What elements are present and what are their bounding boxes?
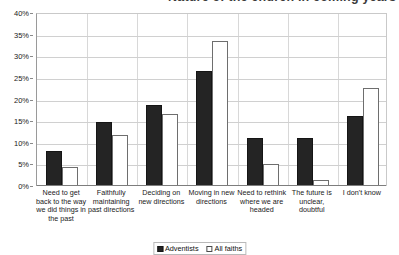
y-axis-tick <box>30 100 33 101</box>
bar-group <box>238 14 288 186</box>
bar-group <box>87 14 137 186</box>
y-axis-tick-label: 40% <box>14 9 29 18</box>
x-axis-category-label: Need to rethink where we are headed <box>237 189 287 215</box>
y-axis-tick <box>30 13 33 14</box>
legend-label: Adventists <box>165 244 199 253</box>
chart-legend: Adventists All faiths <box>153 242 246 255</box>
plot-area <box>36 13 387 186</box>
y-axis-tick <box>30 78 33 79</box>
bar-all-faiths <box>112 135 128 186</box>
legend-item-adventists: Adventists <box>157 244 199 253</box>
y-axis-tick-label: 30% <box>14 52 29 61</box>
y-axis-tick-label: 0% <box>18 182 29 191</box>
y-axis-tick-label: 5% <box>18 160 29 169</box>
bar-adventists <box>247 138 263 186</box>
bar-all-faiths <box>263 164 279 186</box>
x-axis-category-label: Moving in new directions <box>186 189 236 206</box>
y-axis-tick <box>30 35 33 36</box>
y-axis-tick <box>30 143 33 144</box>
y-axis-tick-label: 20% <box>14 95 29 104</box>
y-axis-tick-label: 15% <box>14 117 29 126</box>
page-title: Nature of the church in coming years <box>168 0 396 4</box>
x-axis-category-label: The future is unclear, doubtful <box>287 189 337 215</box>
x-axis-category-label: Need to get back to the way we did thing… <box>36 189 86 223</box>
bar-adventists <box>96 122 112 186</box>
bar-group <box>137 14 187 186</box>
chart-title-cropped: Nature of the church in coming years <box>0 0 399 9</box>
y-axis: 0%5%10%15%20%25%30%35%40% <box>0 0 34 190</box>
y-axis-tick <box>30 121 33 122</box>
bar-adventists <box>146 105 162 186</box>
legend-swatch-icon <box>157 246 163 252</box>
legend-swatch-icon <box>207 246 213 252</box>
y-axis-tick <box>30 56 33 57</box>
bar-all-faiths <box>62 167 78 186</box>
y-axis-tick-label: 25% <box>14 73 29 82</box>
bar-groups <box>37 14 386 186</box>
x-axis-category-label: Faithfully maintaining past directions <box>86 189 136 215</box>
x-axis-category-label: I don't know <box>337 189 387 198</box>
y-axis-tick <box>30 186 33 187</box>
bar-chart: Nature of the church in coming years 0%5… <box>0 0 399 255</box>
x-axis-baseline <box>37 185 386 186</box>
x-axis-category-label: Deciding on new directions <box>136 189 186 206</box>
bar-all-faiths <box>212 41 228 186</box>
bar-group <box>338 14 388 186</box>
y-axis-tick-label: 10% <box>14 138 29 147</box>
bar-all-faiths <box>162 114 178 186</box>
bar-adventists <box>347 116 363 186</box>
bar-group <box>37 14 87 186</box>
bar-adventists <box>297 138 313 186</box>
y-axis-tick-label: 35% <box>14 30 29 39</box>
x-axis-labels: Need to get back to the way we did thing… <box>36 189 387 241</box>
legend-item-all-faiths: All faiths <box>207 244 243 253</box>
bar-all-faiths <box>363 88 379 186</box>
bar-group <box>288 14 338 186</box>
bar-group <box>187 14 237 186</box>
bar-adventists <box>46 151 62 186</box>
y-axis-tick <box>30 164 33 165</box>
bar-adventists <box>196 71 212 186</box>
legend-label: All faiths <box>215 244 243 253</box>
